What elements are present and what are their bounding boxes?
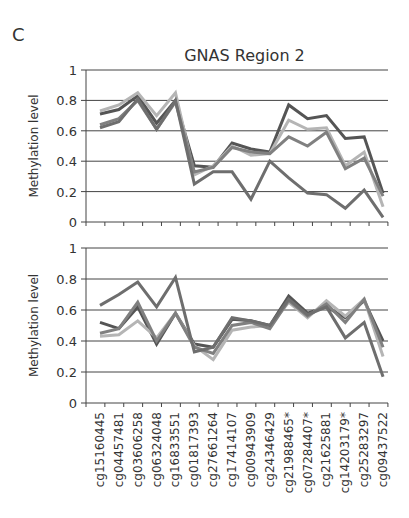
x-category-label: cg21988465* [282,412,296,493]
x-category-label: cg09437522 [376,412,390,487]
y-tick-label: 0.8 [56,93,77,108]
y-tick-label: 0 [69,215,77,230]
x-category-label: cg00943909 [244,412,258,487]
line-charts: 00.20.40.60.81Methylation level00.20.40.… [0,0,409,518]
x-category-label: cg24346429 [263,412,277,487]
y-axis-label: Methylation level [27,94,41,197]
y-tick-label: 0.4 [56,154,77,169]
x-category-label: cg01817393 [187,412,201,487]
x-category-label: cg06324048 [150,412,164,487]
x-category-label: cg07284407* [301,412,315,493]
x-category-label: cg15160445 [93,412,107,487]
x-category-label: cg16833551 [168,412,182,487]
x-category-label: cg04457481 [112,412,126,487]
y-tick-label: 1 [69,63,77,78]
y-axis-label: Methylation level [27,274,41,377]
y-tick-label: 0.4 [56,334,77,349]
x-category-label: cg21625881 [319,412,333,487]
x-category-label: cg17414107 [225,412,239,487]
y-tick-label: 0.2 [56,365,77,380]
series-line [100,100,383,196]
y-tick-label: 0.2 [56,185,77,200]
y-tick-label: 0.6 [56,303,77,318]
x-category-label: cg25283297 [357,412,371,487]
y-tick-label: 0.8 [56,272,77,287]
x-category-label: cg27661264 [206,412,220,487]
y-tick-label: 0.6 [56,124,77,139]
x-category-label: cg03606258 [131,412,145,487]
x-category-label: cg14203179* [338,412,352,493]
series-line [100,296,383,347]
y-tick-label: 1 [69,241,77,256]
series-line [100,96,383,193]
y-tick-label: 0 [69,396,77,411]
